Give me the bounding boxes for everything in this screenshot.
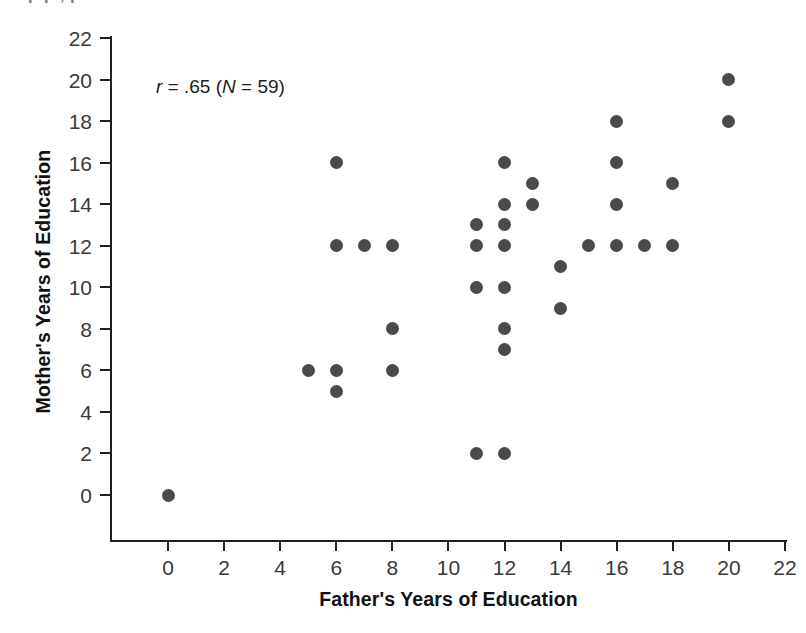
y-tick-mark (100, 286, 111, 288)
scatter-point (666, 177, 679, 190)
scatter-point (666, 239, 679, 252)
correlation-annotation: r = .65 (N = 59) (156, 76, 285, 98)
x-tick-mark (167, 540, 169, 551)
y-tick-mark (100, 203, 111, 205)
scatter-point (470, 218, 483, 231)
scatter-point (330, 385, 343, 398)
y-axis-title: Mother's Years of Education (32, 72, 55, 492)
scatter-point (498, 156, 511, 169)
scatter-point (330, 364, 343, 377)
n-value: = 59) (236, 76, 285, 97)
y-tick-mark (100, 37, 111, 39)
y-tick-mark (100, 369, 111, 371)
y-tick-label: 16 (50, 153, 92, 174)
y-tick-label: 12 (50, 236, 92, 257)
x-tick-mark (391, 540, 393, 551)
x-tick-label: 14 (535, 557, 587, 578)
x-tick-mark (616, 540, 618, 551)
y-tick-mark (100, 162, 111, 164)
x-tick-mark (279, 540, 281, 551)
x-tick-mark (447, 540, 449, 551)
x-tick-mark (672, 540, 674, 551)
x-tick-label: 18 (647, 557, 699, 578)
y-tick-label: 8 (50, 319, 92, 340)
y-tick-label: 2 (50, 443, 92, 464)
scatter-point (610, 198, 623, 211)
scatter-point (498, 322, 511, 335)
y-tick-label: 6 (50, 360, 92, 381)
scatter-point (498, 343, 511, 356)
x-axis-title: Father's Years of Education (110, 588, 787, 611)
scatter-point (386, 364, 399, 377)
x-tick-label: 0 (142, 557, 194, 578)
x-tick-label: 10 (422, 557, 474, 578)
x-tick-mark (335, 540, 337, 551)
y-tick-label: 10 (50, 277, 92, 298)
scatter-point (554, 260, 567, 273)
x-tick-mark (728, 540, 730, 551)
y-tick-mark (100, 494, 111, 496)
scatter-point (554, 302, 567, 315)
x-tick-label: 6 (310, 557, 362, 578)
x-tick-label: 12 (479, 557, 531, 578)
y-tick-label: 20 (50, 70, 92, 91)
scatter-point (386, 322, 399, 335)
n-symbol: N (222, 76, 236, 97)
scatter-point (722, 73, 735, 86)
y-tick-mark (100, 328, 111, 330)
y-tick-mark (100, 79, 111, 81)
scatter-point (722, 115, 735, 128)
x-tick-mark (784, 540, 786, 551)
scatter-point (358, 239, 371, 252)
x-tick-label: 8 (366, 557, 418, 578)
scatter-point (330, 239, 343, 252)
scatter-point (162, 489, 175, 502)
y-tick-label: 18 (50, 111, 92, 132)
y-tick-label: 4 (50, 402, 92, 423)
scatter-point (470, 239, 483, 252)
plot-area: 0246810121416182022 0246810121416182022 … (0, 0, 806, 633)
x-tick-label: 2 (198, 557, 250, 578)
y-tick-label: 0 (50, 485, 92, 506)
scatter-point (470, 447, 483, 460)
scatter-point (302, 364, 315, 377)
scatter-point (498, 239, 511, 252)
scatter-point (498, 198, 511, 211)
scatter-point (470, 281, 483, 294)
x-tick-label: 20 (703, 557, 755, 578)
scatter-plot-figure: 0246810121416182022 0246810121416182022 … (0, 0, 806, 633)
y-tick-mark (100, 245, 111, 247)
scatter-point (610, 115, 623, 128)
x-tick-label: 4 (254, 557, 306, 578)
scatter-point (526, 177, 539, 190)
scatter-point (526, 198, 539, 211)
scatter-point (610, 239, 623, 252)
scatter-point (498, 447, 511, 460)
x-tick-label: 16 (591, 557, 643, 578)
scatter-point (498, 218, 511, 231)
x-tick-mark (560, 540, 562, 551)
x-tick-label: 22 (759, 557, 806, 578)
x-tick-mark (223, 540, 225, 551)
scatter-point (330, 156, 343, 169)
y-tick-label: 14 (50, 194, 92, 215)
y-tick-mark (100, 411, 111, 413)
scatter-point (386, 239, 399, 252)
scatter-point (498, 281, 511, 294)
y-tick-mark (100, 452, 111, 454)
scatter-point (582, 239, 595, 252)
y-axis-line (110, 36, 112, 542)
y-tick-label: 22 (50, 28, 92, 49)
x-tick-mark (504, 540, 506, 551)
r-value: = .65 ( (162, 76, 222, 97)
scatter-point (638, 239, 651, 252)
y-tick-mark (100, 120, 111, 122)
scatter-point (610, 156, 623, 169)
